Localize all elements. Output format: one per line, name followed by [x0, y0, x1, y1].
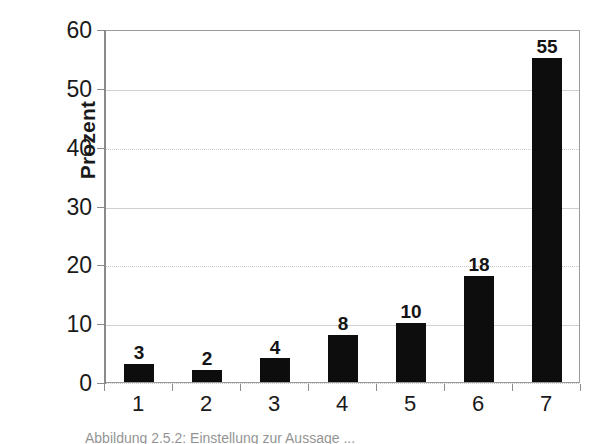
bar-category-6: [464, 276, 494, 382]
bar-category-5: [396, 323, 426, 382]
x-axis-tick-label-7: 7: [516, 391, 576, 417]
y-axis-tick-mark-0: [97, 383, 104, 384]
bar-value-label-3: 4: [260, 337, 290, 359]
y-axis-tick-label-60: 60: [32, 17, 92, 44]
plot-area: 3 2 4 8 10 18 55: [104, 30, 580, 383]
y-axis-tick-mark-20: [97, 265, 104, 266]
bar-value-label-6: 18: [464, 254, 494, 276]
bar-category-1: [124, 364, 154, 382]
x-axis-tick-mark-7: [580, 384, 581, 391]
y-axis-tick-mark-50: [97, 89, 104, 90]
bar-value-label-5: 10: [396, 301, 426, 323]
y-axis-tick-label-0: 0: [32, 370, 92, 397]
gridline-40: [105, 149, 579, 150]
gridline-30: [105, 208, 579, 209]
x-axis-tick-label-2: 2: [176, 391, 236, 417]
y-axis-tick-mark-30: [97, 207, 104, 208]
y-axis-tick-mark-40: [97, 148, 104, 149]
gridline-20: [105, 266, 579, 267]
y-axis-tick-label-30: 30: [32, 193, 92, 220]
y-axis-tick-label-20: 20: [32, 252, 92, 279]
bar-value-label-1: 3: [124, 342, 154, 364]
x-axis-tick-mark-0: [104, 384, 105, 391]
bar-value-label-4: 8: [328, 313, 358, 335]
y-axis-tick-label-10: 10: [32, 311, 92, 338]
y-axis-tick-mark-60: [97, 30, 104, 31]
gridline-0: [105, 383, 579, 384]
x-axis-tick-label-4: 4: [312, 391, 372, 417]
bar-category-7: [532, 58, 562, 382]
x-axis-tick-mark-3: [308, 384, 309, 391]
x-axis-tick-mark-5: [444, 384, 445, 391]
bar-value-label-2: 2: [192, 348, 222, 370]
x-axis-tick-label-6: 6: [448, 391, 508, 417]
x-axis-tick-label-3: 3: [244, 391, 304, 417]
bar-value-label-7: 55: [532, 36, 562, 58]
y-axis-line: [104, 30, 106, 384]
bar-category-2: [192, 370, 222, 382]
x-axis-tick-mark-6: [512, 384, 513, 391]
x-axis-tick-mark-2: [240, 384, 241, 391]
bar-category-3: [260, 358, 290, 382]
x-axis-tick-mark-1: [172, 384, 173, 391]
figure-caption: Abbildung 2.5.2: Einstellung zur Aussage…: [85, 430, 585, 444]
y-axis-tick-label-40: 40: [32, 134, 92, 161]
gridline-50: [105, 90, 579, 91]
x-axis-tick-mark-4: [376, 384, 377, 391]
x-axis-tick-label-5: 5: [380, 391, 440, 417]
bar-category-4: [328, 335, 358, 382]
y-axis-tick-mark-10: [97, 324, 104, 325]
y-axis-tick-label-50: 50: [32, 75, 92, 102]
x-axis-tick-label-1: 1: [108, 391, 168, 417]
bar-chart-figure: Prozent 60 50 40 30 20 10 0 3 2 4 8 10 1…: [0, 0, 607, 444]
